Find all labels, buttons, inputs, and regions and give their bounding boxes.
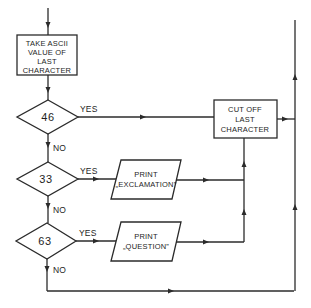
- connector-33-yes-to-exclamation: [78, 177, 116, 182]
- connector-question-to-merge: [176, 240, 244, 245]
- arrow-right-icon: [93, 239, 99, 244]
- arrow-right-icon: [203, 240, 209, 245]
- decision-63-value: 63: [38, 235, 51, 247]
- arrow-down-icon: [46, 142, 51, 148]
- arrow-right-icon: [203, 178, 209, 183]
- process-ascii-line-4: CHARACTER: [23, 66, 72, 75]
- connector-33-no-to-63: [46, 196, 51, 223]
- arrow-up-icon: [293, 74, 298, 80]
- arrow-up-icon: [293, 204, 298, 210]
- process-ascii-line-3: LAST: [37, 57, 57, 66]
- connector-ascii-to-46: [46, 75, 51, 100]
- decision-63-no-label: NO: [53, 265, 66, 275]
- output-exclamation-line-2: „EXCLAMATION”: [116, 180, 177, 189]
- process-cutoff-line-1: CUT OFF: [228, 105, 262, 114]
- output-question-line-2: „QUESTION”: [123, 242, 169, 251]
- decision-46-value: 46: [41, 111, 54, 123]
- arrow-down-icon: [45, 266, 50, 272]
- decision-46-no-label: NO: [53, 143, 66, 153]
- connector-63-yes-to-question: [76, 239, 116, 244]
- process-cutoff-line-3: CHARACTER: [221, 125, 270, 134]
- arrow-right-icon: [93, 177, 99, 182]
- decision-46-yes-label: YES: [80, 104, 98, 114]
- process-ascii-line-1: TAKE ASCII: [26, 39, 68, 48]
- output-print-exclamation: PRINT „EXCLAMATION”: [111, 160, 181, 199]
- decision-33-yes-label: YES: [80, 166, 98, 176]
- decision-33-value: 33: [39, 173, 52, 185]
- arrow-up-icon: [242, 161, 247, 167]
- decision-63-yes-label: YES: [79, 228, 97, 238]
- process-cutoff-line-2: LAST: [235, 115, 255, 124]
- process-ascii-line-2: VALUE OF: [28, 48, 66, 57]
- decision-46: 46: [17, 100, 78, 134]
- process-take-ascii-box: TAKE ASCII VALUE OF LAST CHARACTER: [17, 35, 77, 75]
- arrow-down-icon: [46, 87, 51, 93]
- flowchart-canvas: TAKE ASCII VALUE OF LAST CHARACTER 46 YE…: [0, 0, 311, 308]
- connector-46-no-to-33: [46, 134, 51, 162]
- process-cut-off-box: CUT OFF LAST CHARACTER: [214, 100, 277, 138]
- decision-33: 33: [17, 162, 78, 196]
- arrow-right-icon: [282, 117, 288, 122]
- connector-cutoff-to-exit: [277, 117, 295, 122]
- arrow-down-icon: [46, 22, 51, 28]
- output-exclamation-line-1: PRINT: [134, 170, 158, 179]
- connector-63-no-loop: [45, 259, 295, 294]
- connector-46-yes-to-cutoff: [78, 115, 214, 120]
- entry-connector: [46, 8, 51, 35]
- output-question-line-1: PRINT: [134, 232, 158, 241]
- output-print-question: PRINT „QUESTION”: [111, 222, 181, 261]
- decision-63: 63: [16, 223, 76, 259]
- connector-exit-vertical: [293, 20, 298, 291]
- decision-33-no-label: NO: [53, 205, 66, 215]
- arrow-right-icon: [140, 115, 146, 120]
- arrow-up-icon: [242, 209, 247, 215]
- arrow-down-icon: [46, 203, 51, 209]
- connector-exclamation-to-merge: [176, 178, 244, 183]
- arrow-right-icon: [168, 289, 174, 294]
- connector-merge-to-cutoff: [242, 138, 247, 242]
